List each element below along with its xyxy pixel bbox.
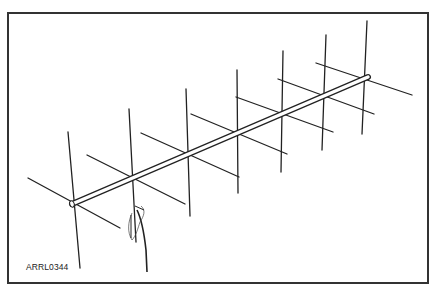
yagi-antenna-diagram xyxy=(0,0,432,289)
antenna-elements xyxy=(28,21,412,268)
antenna-boom xyxy=(69,77,368,208)
feed-line xyxy=(129,206,147,272)
figure-label: ARRL0344 xyxy=(26,262,68,272)
